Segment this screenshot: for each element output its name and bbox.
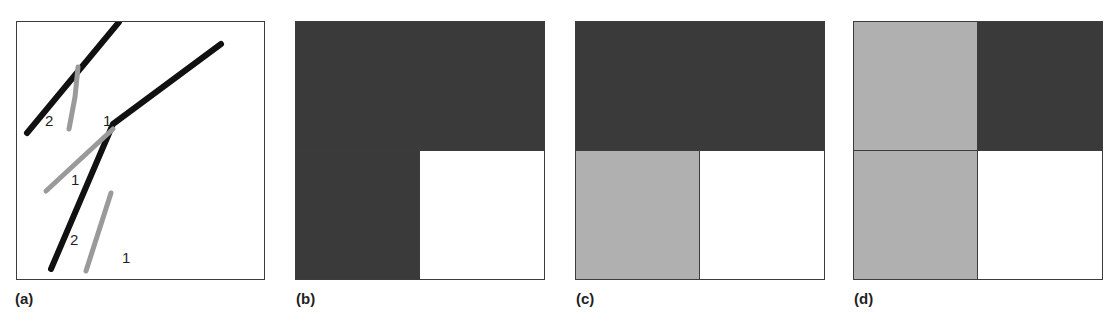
panel-b-quadrant-grid [295,21,545,280]
marker-number-label-4: 2 [70,232,78,247]
panel-c [565,0,840,322]
panel-d-quadrant-top-left [854,22,978,151]
figure-root: 2 1 1 2 1 (a) (b [0,0,1114,322]
panel-label-c: (c) [576,291,594,306]
panel-a-line-sketch [17,22,266,281]
panel-d-quadrant-bottom-left [854,151,978,280]
marker-number-label-1: 2 [45,113,53,128]
panel-b-quadrant-bottom-left [296,151,420,280]
marker-number-label-5: 1 [122,250,130,265]
panel-label-a: (a) [15,291,33,306]
panel-d [840,0,1114,322]
gray-marker-middle [46,129,113,191]
marker-number-label-3: 1 [71,172,79,187]
panel-c-quadrant-top-right [700,22,824,151]
panel-c-quadrant-bottom-right [700,151,824,280]
panel-c-quadrant-bottom-left [576,151,700,280]
marker-number-label-2: 1 [103,113,111,128]
panel-d-quadrant-bottom-right [978,151,1102,280]
panel-d-quadrant-top-right [978,22,1102,151]
panel-d-quadrant-grid [853,21,1103,280]
panel-b [285,0,560,322]
panel-a: 2 1 1 2 1 [0,0,290,322]
panel-label-d: (d) [854,291,873,306]
panel-b-quadrant-top-right [420,22,544,151]
panel-label-b: (b) [296,291,315,306]
panel-a-plot-area: 2 1 1 2 1 [16,21,265,280]
gray-marker-lower [86,193,111,271]
panel-c-quadrant-grid [575,21,825,280]
panel-b-quadrant-bottom-right [420,151,544,280]
panel-c-quadrant-top-left [576,22,700,151]
panel-b-quadrant-top-left [296,22,420,151]
